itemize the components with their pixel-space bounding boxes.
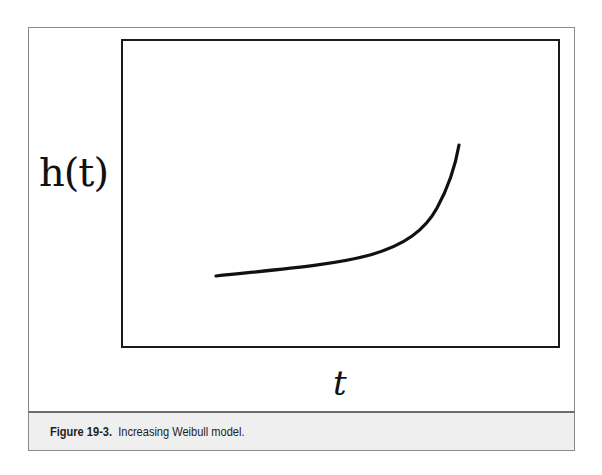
hazard-curve xyxy=(0,0,602,475)
caption-text: Figure 19-3. Increasing Weibull model. xyxy=(50,424,245,439)
caption-description: Increasing Weibull model. xyxy=(118,424,244,439)
figure-number: Figure 19-3. xyxy=(50,424,112,439)
y-axis-label: h(t) xyxy=(39,152,108,192)
figure-caption: Figure 19-3. Increasing Weibull model. xyxy=(28,411,575,451)
x-axis-label: t xyxy=(333,366,347,400)
